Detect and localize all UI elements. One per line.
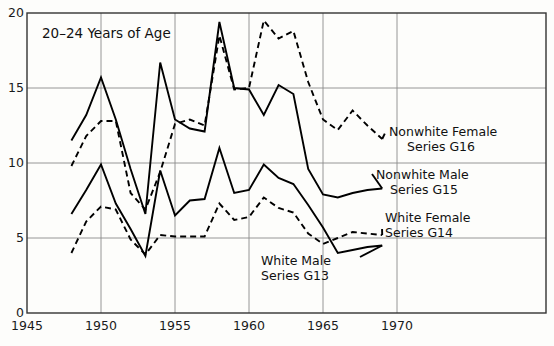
annotation-nonwhite-female-line2: Series G16 (389, 139, 497, 154)
annotation-white-male-line1: White Male (261, 253, 331, 268)
leader-line-series-g16 (382, 131, 386, 139)
x-tick-label-1945: 1945 (4, 318, 50, 333)
series-lines (71, 21, 382, 257)
x-tick-label-1965: 1965 (300, 318, 346, 333)
y-tick-label-20: 20 (0, 5, 24, 20)
annotation-nonwhite-male-line2: Series G15 (376, 182, 469, 197)
annotation-nonwhite-male: Nonwhite Male Series G15 (376, 167, 469, 197)
x-tick-label-1960: 1960 (226, 318, 272, 333)
annotation-white-male-line2: Series G13 (261, 268, 331, 283)
chart-container: 20151050 194519501955196019651970 20–24 … (0, 0, 554, 346)
series-line-series-g16 (71, 21, 382, 210)
x-tick-label-1955: 1955 (152, 318, 198, 333)
annotation-nonwhite-female-line1: Nonwhite Female (389, 124, 497, 139)
annotation-nonwhite-male-line1: Nonwhite Male (376, 167, 469, 182)
annotation-nonwhite-female: Nonwhite Female Series G16 (389, 124, 497, 154)
annotation-white-male: White Male Series G13 (261, 253, 331, 283)
annotation-white-female-line2: Series G14 (385, 225, 471, 240)
y-tick-label-5: 5 (0, 230, 24, 245)
x-tick-label-1970: 1970 (374, 318, 420, 333)
x-tick-label-1950: 1950 (78, 318, 124, 333)
panel-title: 20–24 Years of Age (42, 25, 171, 41)
annotation-white-female: White Female Series G14 (385, 210, 471, 240)
series-line-series-g15 (71, 22, 382, 214)
annotation-white-female-line1: White Female (385, 210, 471, 225)
chart-plot-area (0, 0, 554, 346)
y-tick-label-10: 10 (0, 155, 24, 170)
y-tick-label-15: 15 (0, 80, 24, 95)
